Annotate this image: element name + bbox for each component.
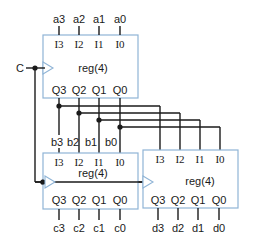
register-top: reg(4) I3 I2 I1 I0 Q3 Q2 Q1 Q0 (43, 35, 138, 98)
register-bottom-right-input-pin: I2 (175, 153, 184, 165)
register-top-input-pin: I1 (94, 38, 103, 50)
register-bottom-left-input-pin: I1 (94, 156, 103, 168)
register-bottom-left-input-pin: I3 (54, 156, 64, 168)
register-bottom-left-output-pin: Q3 (52, 194, 67, 206)
register-top-input-pin: I2 (74, 38, 83, 50)
register-top-output-pin: Q3 (52, 84, 67, 96)
register-top-output-pin: Q2 (72, 84, 87, 96)
register-bottom-right-input-pin: I3 (155, 153, 165, 165)
junction-dot-icon (76, 110, 81, 115)
register-bottom-left-output-pin: Q0 (113, 194, 128, 206)
junction-dot-icon (56, 103, 61, 108)
register-bottom-left-output-pin: Q2 (72, 194, 87, 206)
top-input-signals: a3 a2 a1 a0 (53, 13, 126, 35)
signal-label: b2 (67, 136, 79, 148)
register-top-output-pin: Q1 (92, 84, 107, 96)
register-bottom-right-input-pin: I1 (195, 153, 204, 165)
register-bottom-right-output-pin: Q0 (212, 194, 227, 206)
signal-label: a1 (93, 13, 105, 25)
signal-label: a2 (73, 13, 85, 25)
junction-dot-icon (117, 124, 122, 129)
register-bottom-right-output-pin: Q1 (191, 194, 206, 206)
register-bottom-left-output-pin: Q1 (92, 194, 107, 206)
clock-label: C (16, 62, 24, 74)
register-bottom-left: reg(4) I3 I2 I1 I0 Q3 Q2 Q1 Q0 c3 c2 c1 … (35, 153, 143, 234)
signal-label: d1 (192, 222, 204, 234)
signal-label: c3 (53, 222, 65, 234)
signal-label: d3 (152, 222, 164, 234)
register-bottom-right-input-pin: I0 (215, 153, 225, 165)
register-top-output-pin: Q0 (113, 84, 128, 96)
signal-label: b3 (51, 136, 63, 148)
signal-label: d0 (213, 222, 225, 234)
signal-label: c0 (114, 222, 126, 234)
signal-label: a3 (53, 13, 65, 25)
signal-label: c2 (73, 222, 85, 234)
signal-label: d2 (172, 222, 184, 234)
register-bottom-right-output-pin: Q2 (171, 194, 186, 206)
signal-label: a0 (114, 13, 126, 25)
register-bottom-right: reg(4) I3 I2 I1 I0 Q3 Q2 Q1 Q0 d3 d2 d1 … (143, 150, 238, 234)
signal-label: c1 (93, 222, 105, 234)
register-top-input-pin: I3 (54, 38, 64, 50)
register-bottom-left-name: reg(4) (78, 167, 107, 179)
signal-label: b1 (85, 136, 97, 148)
bus-wires: b3 b2 b1 b0 (49, 98, 220, 153)
junction-dot-icon (96, 117, 101, 122)
register-top-name: reg(4) (78, 62, 107, 74)
register-bottom-left-input-pin: I2 (74, 156, 83, 168)
signal-label: b0 (105, 136, 117, 148)
register-bottom-left-input-pin: I0 (115, 156, 125, 168)
register-bottom-right-name: reg(4) (185, 175, 214, 187)
register-top-input-pin: I0 (115, 38, 125, 50)
register-bottom-right-output-pin: Q3 (151, 194, 166, 206)
register-diagram: reg(4) I3 I2 I1 I0 Q3 Q2 Q1 Q0 a3 a2 a1 … (0, 0, 275, 248)
